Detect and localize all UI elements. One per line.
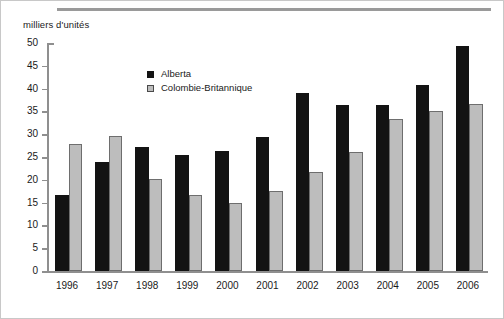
- bar-alberta-2005: [416, 85, 430, 271]
- y-tick-label: 5: [32, 243, 38, 253]
- y-tick-label: 40: [27, 84, 38, 94]
- y-tick-label: 35: [27, 106, 38, 116]
- bar-bc-2002: [309, 172, 323, 271]
- bar-bc-1998: [149, 179, 163, 271]
- y-tick-mark: [42, 225, 48, 227]
- bar-bc-1996: [69, 144, 83, 271]
- y-tick-mark: [42, 271, 48, 273]
- y-tick-label: 20: [27, 175, 38, 185]
- bar-group: [336, 43, 363, 271]
- x-axis-line: [47, 271, 488, 273]
- x-tick-label: 1999: [167, 281, 207, 291]
- bar-group: [456, 43, 483, 271]
- y-tick-mark: [42, 66, 48, 68]
- y-tick-mark: [42, 134, 48, 136]
- y-tick-mark: [42, 111, 48, 113]
- outlined-square-icon: [147, 85, 154, 92]
- y-tick-label: 50: [27, 38, 38, 48]
- bar-series-container: [49, 43, 490, 271]
- x-tick-label: 2004: [368, 281, 408, 291]
- bar-alberta-1996: [55, 195, 69, 271]
- y-tick-label: 0: [32, 266, 38, 276]
- y-tick-label: 15: [27, 198, 38, 208]
- bar-bc-2004: [389, 119, 403, 271]
- bar-alberta-2001: [256, 137, 270, 271]
- bar-bc-1997: [109, 136, 123, 271]
- y-tick-mark: [42, 180, 48, 182]
- bar-group: [416, 43, 443, 271]
- y-tick-mark: [42, 89, 48, 91]
- x-tick-label: 1996: [47, 281, 87, 291]
- header-rule: [57, 8, 491, 11]
- bar-group: [376, 43, 403, 271]
- bar-alberta-2003: [336, 105, 350, 271]
- bar-alberta-2006: [456, 46, 470, 271]
- y-tick-label: 30: [27, 129, 38, 139]
- bar-group: [55, 43, 82, 271]
- legend-label: Alberta: [161, 67, 191, 81]
- y-tick-label: 45: [27, 61, 38, 71]
- y-tick-mark: [42, 203, 48, 205]
- chart-figure: milliers d'unités 05101520253035404550 1…: [0, 0, 504, 319]
- bar-bc-2006: [469, 104, 483, 271]
- filled-square-icon: [147, 71, 154, 78]
- bar-group: [95, 43, 122, 271]
- plot-area: 05101520253035404550 1996199719981999200…: [47, 43, 490, 271]
- bar-bc-1999: [189, 195, 203, 271]
- bar-bc-2001: [269, 191, 283, 271]
- x-tick-label: 2006: [448, 281, 488, 291]
- chart-legend: AlbertaColombie-Britannique: [147, 67, 252, 95]
- bar-group: [296, 43, 323, 271]
- bar-alberta-2004: [376, 105, 390, 271]
- legend-item-alberta: Alberta: [147, 67, 252, 81]
- x-tick-label: 2001: [247, 281, 287, 291]
- y-tick-label: 10: [27, 220, 38, 230]
- bar-bc-2003: [349, 152, 363, 271]
- x-tick-label: 2002: [288, 281, 328, 291]
- y-tick-label: 25: [27, 152, 38, 162]
- bar-alberta-2000: [215, 151, 229, 271]
- bar-alberta-2002: [296, 93, 310, 271]
- legend-label: Colombie-Britannique: [161, 81, 252, 95]
- x-tick-label: 1997: [87, 281, 127, 291]
- y-tick-mark: [42, 157, 48, 159]
- y-axis-title: milliers d'unités: [23, 19, 89, 30]
- x-tick-label: 2000: [207, 281, 247, 291]
- bar-alberta-1998: [135, 147, 149, 271]
- bar-bc-2005: [429, 111, 443, 271]
- y-tick-mark: [42, 248, 48, 250]
- x-tick-label: 2003: [328, 281, 368, 291]
- x-tick-label: 1998: [127, 281, 167, 291]
- bar-group: [256, 43, 283, 271]
- bar-bc-2000: [229, 203, 243, 271]
- legend-item-colombie-britannique: Colombie-Britannique: [147, 81, 252, 95]
- x-tick-label: 2005: [408, 281, 448, 291]
- bar-alberta-1997: [95, 162, 109, 271]
- bar-alberta-1999: [175, 155, 189, 271]
